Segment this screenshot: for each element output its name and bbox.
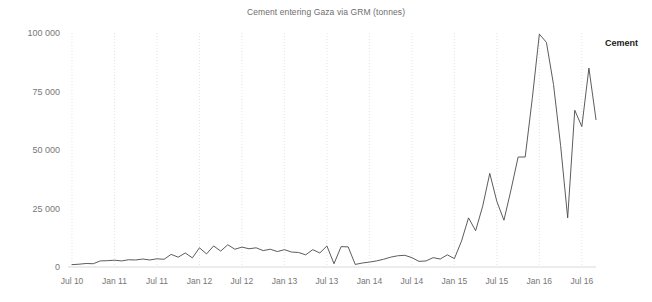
x-tick-label: Jul 15	[486, 276, 509, 286]
series-line-cement	[72, 34, 596, 264]
x-tick-label: Jan 14	[357, 276, 383, 286]
x-tick-label: Jul 11	[146, 276, 168, 286]
y-tick-label: 0	[0, 262, 60, 272]
x-tick-label: Jul 10	[61, 276, 84, 286]
legend-series-label: Cement	[605, 38, 638, 48]
x-tick-label: Jan 16	[527, 276, 553, 286]
gridlines	[72, 33, 582, 267]
y-tick-label: 25 000	[0, 204, 60, 214]
x-tick-label: Jan 11	[102, 276, 127, 286]
x-tick-label: Jul 16	[570, 276, 593, 286]
x-tick-label: Jul 12	[231, 276, 254, 286]
chart-plot-area	[0, 0, 652, 302]
y-tick-label: 100 000	[0, 28, 60, 38]
x-tick-label: Jan 15	[442, 276, 468, 286]
x-tick-label: Jan 13	[272, 276, 298, 286]
x-tick-label: Jan 12	[187, 276, 213, 286]
y-tick-label: 75 000	[0, 87, 60, 97]
y-tick-label: 50 000	[0, 145, 60, 155]
chart-container: Cement entering Gaza via GRM (tonnes) 02…	[0, 0, 652, 302]
x-tick-label: Jul 14	[401, 276, 424, 286]
x-tick-label: Jul 13	[316, 276, 339, 286]
